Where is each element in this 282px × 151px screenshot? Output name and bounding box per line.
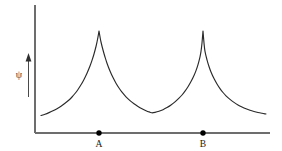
wavefunction-curve	[41, 31, 266, 116]
y-axis-symbol-psi: ψ	[16, 69, 23, 80]
wavefunction-figure: ψ A B	[0, 0, 282, 151]
nucleus-label-b: B	[200, 139, 206, 149]
nucleus-dot-a	[96, 130, 101, 135]
marker-b: B	[200, 130, 206, 149]
psi-axis-arrow	[26, 53, 32, 97]
plot-canvas: ψ A B	[0, 0, 282, 151]
marker-a: A	[96, 130, 103, 149]
nucleus-label-a: A	[96, 139, 103, 149]
arrow-up-icon	[26, 53, 32, 62]
nucleus-dot-b	[200, 130, 205, 135]
